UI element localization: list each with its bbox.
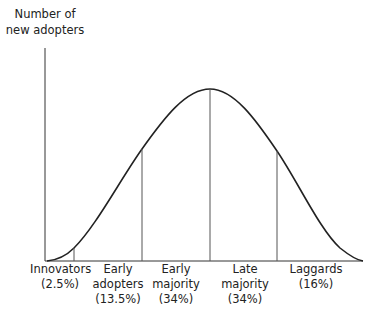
category-share: (16%) (281, 277, 351, 292)
y-axis-label: Number of new adopters (0, 6, 90, 38)
category-label: majority (146, 277, 206, 292)
category-innovators: Innovators (2.5%) (30, 262, 90, 292)
category-label: Innovators (30, 262, 90, 277)
category-early-majority: Early majority (34%) (146, 262, 206, 307)
category-share: (2.5%) (30, 277, 90, 292)
bell-curve (47, 89, 363, 261)
y-axis-label-line1: Number of (0, 6, 90, 22)
category-share: (34%) (146, 292, 206, 307)
category-label: Early (146, 262, 206, 277)
category-share: (34%) (215, 292, 275, 307)
category-label: Late (215, 262, 275, 277)
category-label: adopters (88, 277, 148, 292)
category-early-adopters: Early adopters (13.5%) (88, 262, 148, 307)
category-laggards: Laggards (16%) (281, 262, 351, 292)
category-label: majority (215, 277, 275, 292)
category-share: (13.5%) (88, 292, 148, 307)
category-label: Laggards (281, 262, 351, 277)
category-late-majority: Late majority (34%) (215, 262, 275, 307)
category-label: Early (88, 262, 148, 277)
y-axis-label-line2: new adopters (0, 22, 90, 38)
